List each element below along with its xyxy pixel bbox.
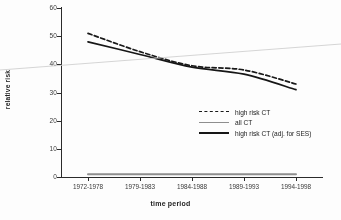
x-tick-mark xyxy=(244,177,245,181)
x-tick-mark xyxy=(192,177,193,181)
y-tick-label-wrap: 40 xyxy=(0,60,57,68)
dashed-line-swatch xyxy=(199,108,229,116)
y-tick-mark xyxy=(57,36,61,37)
relative-risk-line-chart: 0102030405060 1972-19781979-19831984-198… xyxy=(0,0,341,220)
y-axis-title: relative risk xyxy=(4,70,11,109)
y-tick-label-wrap: 20 xyxy=(0,117,57,125)
y-tick-mark xyxy=(57,64,61,65)
plot-area xyxy=(62,8,322,177)
x-tick-label: 1989-1993 xyxy=(214,183,274,190)
x-tick-label: 1979-1983 xyxy=(110,183,170,190)
y-tick-label: 60 xyxy=(11,4,57,11)
x-tick-mark xyxy=(140,177,141,181)
y-tick-label: 30 xyxy=(11,89,57,96)
x-tick-label: 1972-1978 xyxy=(58,183,118,190)
legend-item: high risk CT xyxy=(199,107,339,118)
y-tick-label: 40 xyxy=(11,60,57,67)
y-tick-mark xyxy=(57,93,61,94)
x-axis-title: time period xyxy=(0,200,341,207)
chart-legend: high risk CTall CThigh risk CT (adj. for… xyxy=(199,107,339,139)
y-tick-label: 50 xyxy=(11,32,57,39)
y-tick-label: 10 xyxy=(11,145,57,152)
y-tick-label: 0 xyxy=(11,173,57,180)
legend-item: all CT xyxy=(199,118,339,129)
x-tick-mark xyxy=(296,177,297,181)
gray-line-swatch xyxy=(199,119,229,127)
y-tick-label-wrap: 50 xyxy=(0,32,57,40)
legend-item-label: high risk CT xyxy=(235,109,270,116)
y-tick-mark xyxy=(57,121,61,122)
y-tick-label-wrap: 60 xyxy=(0,4,57,12)
y-tick-mark xyxy=(57,177,61,178)
x-tick-label: 1984-1988 xyxy=(162,183,222,190)
y-tick-mark xyxy=(57,149,61,150)
series-line-0 xyxy=(88,33,296,84)
solid-line-swatch xyxy=(199,129,229,137)
data-series-group xyxy=(62,8,322,177)
legend-item-label: all CT xyxy=(235,119,252,126)
y-tick-label-wrap: 10 xyxy=(0,145,57,153)
x-tick-label: 1994-1998 xyxy=(266,183,326,190)
y-tick-label-wrap: 0 xyxy=(0,173,57,181)
y-tick-label: 20 xyxy=(11,117,57,124)
y-tick-mark xyxy=(57,8,61,9)
legend-item-label: high risk CT (adj. for SES) xyxy=(235,130,311,137)
x-tick-mark xyxy=(88,177,89,181)
legend-item: high risk CT (adj. for SES) xyxy=(199,128,339,139)
